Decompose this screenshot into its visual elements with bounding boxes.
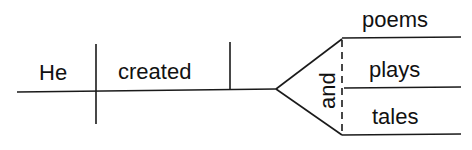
main-baseline xyxy=(17,89,276,92)
object-line-tales xyxy=(342,134,461,135)
sentence-diagram: He created poems plays tales and xyxy=(0,0,472,150)
verb-word: created xyxy=(118,59,191,84)
object-line-poems xyxy=(342,37,461,38)
subject-word: He xyxy=(39,60,67,85)
object-line-plays xyxy=(344,87,461,88)
conjunction-word: and xyxy=(315,72,340,109)
object-word-tales: tales xyxy=(372,104,418,129)
object-word-poems: poems xyxy=(362,7,428,32)
object-word-plays: plays xyxy=(369,57,420,82)
